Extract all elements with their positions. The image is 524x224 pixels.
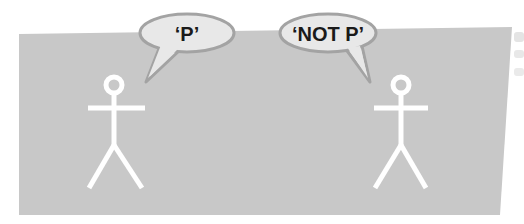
bubble-text-right: ‘NOT P’ bbox=[292, 23, 364, 45]
edge-mark bbox=[514, 32, 524, 42]
edge-mark bbox=[514, 50, 524, 58]
bubble-text-left: ‘P’ bbox=[175, 23, 199, 45]
edge-mark bbox=[514, 68, 524, 76]
background-panel bbox=[19, 27, 512, 215]
diagram-canvas: ‘P’ ‘NOT P’ bbox=[0, 0, 524, 224]
